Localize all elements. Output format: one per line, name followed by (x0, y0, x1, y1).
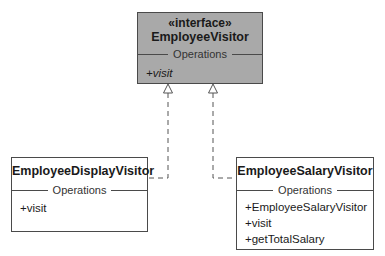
interface-stereotype: «interface» (138, 16, 262, 30)
realization-arrowhead-display (164, 84, 173, 93)
class-employee-salary-visitor[interactable]: EmployeeSalaryVisitor Operations +Employ… (236, 157, 374, 250)
operations-label: Operations (48, 183, 112, 197)
interface-name: EmployeeVisitor (138, 30, 262, 45)
class-name: EmployeeSalaryVisitor (237, 164, 373, 179)
operations-list: +EmployeeSalaryVisitor +visit +getTotalS… (237, 199, 373, 247)
operations-label: Operations (273, 183, 337, 197)
realization-arrowhead-salary (209, 84, 218, 93)
operation-visit: +visit (20, 200, 147, 216)
interface-employee-visitor[interactable]: «interface» EmployeeVisitor Operations +… (137, 12, 263, 84)
class-name: EmployeeDisplayVisitor (12, 164, 147, 179)
operation-get-total-salary: +getTotalSalary (245, 231, 373, 247)
operations-section-header: Operations (138, 47, 262, 61)
realization-line-salary (213, 93, 236, 178)
operations-section-header: Operations (12, 183, 147, 197)
operation-visit: +visit (146, 65, 262, 81)
operation-constructor: +EmployeeSalaryVisitor (245, 199, 373, 215)
operations-label: Operations (168, 47, 232, 61)
operation-visit: +visit (245, 215, 373, 231)
class-employee-display-visitor[interactable]: EmployeeDisplayVisitor Operations +visit (11, 157, 148, 232)
operations-list: +visit (138, 65, 262, 81)
operations-list: +visit (12, 200, 147, 216)
operations-section-header: Operations (237, 183, 373, 197)
